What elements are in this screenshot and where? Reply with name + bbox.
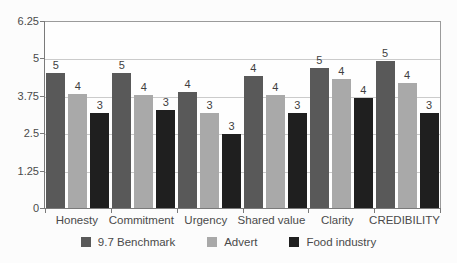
legend-label: Food industry [306,236,376,248]
bar-column: 5 [46,22,65,209]
plot-area: 543543433443544543 [45,21,441,209]
category-label-clarity: Clarity [305,213,369,227]
y-axis-tick [40,171,44,172]
bar-data-label: 4 [404,69,410,81]
bar-9-7-benchmark [178,92,197,209]
bar-data-label: 3 [97,99,103,111]
bar-data-label: 4 [338,65,344,77]
bar-column: 3 [420,22,439,209]
legend-swatch-icon [207,237,217,247]
bar-data-label: 4 [185,78,191,90]
bar-group-commitment: 543 [111,22,177,209]
bar-food-industry [156,110,175,209]
y-axis-tick [40,208,44,209]
bar-advert [398,83,417,209]
bar-data-label: 3 [426,99,432,111]
y-tick-label: 6.25 [0,15,39,27]
bar-advert [200,113,219,209]
bar-data-label: 5 [119,59,125,71]
bar-column: 5 [310,22,329,209]
bar-column: 4 [354,22,373,209]
bar-column: 4 [244,22,263,209]
bar-column: 4 [178,22,197,209]
bar-column: 4 [134,22,153,209]
bar-advert [134,95,153,209]
y-axis-tick [40,21,44,22]
x-axis-category-labels: HonestyCommitmentUrgencyShared valueClar… [45,213,440,227]
bar-data-label: 4 [250,62,256,74]
y-axis-line [44,21,45,209]
bar-column: 4 [332,22,351,209]
bar-data-label: 5 [53,59,59,71]
y-tick-label: 5 [0,52,39,64]
grouped-bar-chart: 01.252.53.7556.25 543543433443544543 Hon… [0,0,457,263]
bar-group-urgency: 433 [177,22,243,209]
bar-data-label: 4 [75,80,81,92]
bar-food-industry [90,113,109,209]
y-tick-label: 3.75 [0,90,39,102]
legend-item-9-7-benchmark: 9.7 Benchmark [81,236,175,248]
bar-group-honesty: 543 [45,22,111,209]
y-tick-label: 1.25 [0,165,39,177]
category-label-commitment: Commitment [109,213,174,227]
bar-9-7-benchmark [244,76,263,209]
category-label-shared-value: Shared value [238,213,306,227]
bar-column: 3 [90,22,109,209]
category-label-urgency: Urgency [174,213,238,227]
bar-data-label: 5 [382,47,388,59]
x-axis-line [41,208,441,209]
bar-food-industry [354,98,373,209]
bar-data-label: 3 [163,96,169,108]
bar-9-7-benchmark [46,73,65,209]
bar-column: 3 [288,22,307,209]
bar-data-label: 3 [229,120,235,132]
bar-food-industry [288,113,307,209]
bar-data-label: 4 [141,81,147,93]
y-axis-tick [40,133,44,134]
bar-group-credibility: 543 [374,22,440,209]
chart-legend: 9.7 BenchmarkAdvertFood industry [0,236,457,248]
bar-data-label: 4 [360,84,366,96]
bar-advert [266,95,285,209]
bar-data-label: 4 [272,81,278,93]
category-label-honesty: Honesty [45,213,109,227]
bar-9-7-benchmark [112,73,131,209]
bar-column: 4 [68,22,87,209]
bar-advert [68,94,87,209]
legend-swatch-icon [289,237,299,247]
y-axis-tick [40,58,44,59]
bar-food-industry [420,113,439,209]
bar-9-7-benchmark [310,68,329,209]
bar-data-label: 3 [294,99,300,111]
bar-column: 3 [200,22,219,209]
legend-item-advert: Advert [207,236,257,248]
bar-food-industry [222,134,241,209]
bar-group-clarity: 544 [308,22,374,209]
bar-group-shared-value: 443 [242,22,308,209]
bar-column: 4 [398,22,417,209]
bar-column: 4 [266,22,285,209]
category-label-credibility: CREDIBILITY [369,213,440,227]
bar-column: 3 [222,22,241,209]
y-axis-tick [40,96,44,97]
y-tick-label: 0 [0,202,39,214]
bar-data-label: 5 [316,54,322,66]
bar-column: 5 [376,22,395,209]
bar-column: 5 [112,22,131,209]
bar-advert [332,79,351,209]
legend-item-food-industry: Food industry [289,236,376,248]
legend-swatch-icon [81,237,91,247]
legend-label: 9.7 Benchmark [98,236,175,248]
legend-label: Advert [224,236,257,248]
bar-column: 3 [156,22,175,209]
bar-9-7-benchmark [376,61,395,209]
x-axis-tick [440,209,441,213]
bars-row: 543543433443544543 [45,22,440,209]
bar-data-label: 3 [207,99,213,111]
y-tick-label: 2.5 [0,127,39,139]
